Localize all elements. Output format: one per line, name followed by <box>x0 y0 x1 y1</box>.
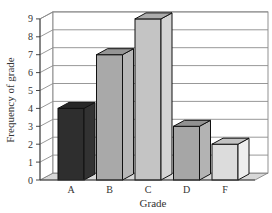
x-tick-label: A <box>67 184 75 195</box>
x-tick-label: C <box>145 184 152 195</box>
x-tick-label: D <box>183 184 190 195</box>
bar-front <box>58 108 84 180</box>
bar-front <box>212 144 238 180</box>
bar-chart-3d: 0123456789 ABCDF Grade Frequency of grad… <box>0 0 272 213</box>
x-tick-label: B <box>106 184 113 195</box>
bar-side <box>161 13 172 180</box>
y-tick-label: 2 <box>28 139 33 150</box>
x-axis-title: Grade <box>140 197 167 209</box>
y-tick-label: 3 <box>28 121 33 132</box>
y-axis: 0123456789 <box>28 13 40 185</box>
y-tick-label: 8 <box>28 31 33 42</box>
y-axis-title: Frequency of grade <box>4 57 16 143</box>
x-tick-label: F <box>222 184 228 195</box>
y-tick-label: 1 <box>28 157 33 168</box>
bar-f <box>212 138 249 180</box>
bar-a <box>58 102 95 180</box>
bar-side <box>200 120 211 180</box>
bar-front <box>135 19 161 180</box>
chart-side-wall <box>40 12 53 180</box>
bar-side <box>123 49 134 180</box>
y-tick-label: 0 <box>28 175 33 186</box>
bar-front <box>97 55 123 180</box>
bar-d <box>174 120 211 180</box>
bar-c <box>135 13 172 180</box>
y-tick-label: 9 <box>28 13 33 24</box>
y-tick-label: 7 <box>28 49 33 60</box>
bar-side <box>238 138 249 180</box>
x-axis: ABCDF <box>40 180 255 195</box>
y-tick-label: 4 <box>28 103 33 114</box>
bar-side <box>84 102 95 180</box>
bar-b <box>97 49 134 180</box>
y-tick-label: 5 <box>28 85 33 96</box>
bar-front <box>174 126 200 180</box>
y-tick-label: 6 <box>28 67 33 78</box>
